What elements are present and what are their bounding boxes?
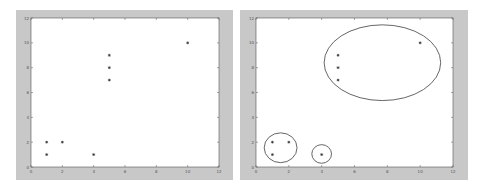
- x-tick-label: 4: [92, 169, 95, 174]
- y-tick-label: 10: [249, 40, 255, 45]
- y-tick-label: 4: [26, 115, 29, 120]
- data-point-marker: [108, 79, 111, 82]
- x-tick-label: 2: [288, 169, 291, 174]
- y-tick-label: 12: [249, 16, 255, 21]
- plot-area-left: [31, 18, 219, 167]
- data-point-marker: [108, 66, 111, 69]
- y-tick-label: 12: [24, 16, 30, 21]
- y-tick-label: 4: [251, 115, 254, 120]
- x-tick-label: 2: [61, 169, 64, 174]
- data-point-marker: [320, 153, 323, 156]
- x-tick-label: 10: [185, 169, 191, 174]
- x-tick-label: 4: [320, 169, 323, 174]
- y-tick-label: 8: [26, 65, 29, 70]
- y-tick-label: 2: [251, 140, 254, 145]
- y-tick-label: 6: [251, 90, 254, 95]
- data-point-marker: [337, 54, 340, 57]
- charts-canvas: 024681012024681012024681012024681012: [0, 0, 482, 190]
- data-point-marker: [271, 141, 274, 144]
- x-tick-label: 0: [30, 169, 33, 174]
- data-point-marker: [287, 141, 290, 144]
- x-tick-label: 0: [255, 169, 258, 174]
- y-tick-label: 10: [24, 40, 30, 45]
- x-tick-label: 8: [155, 169, 158, 174]
- x-tick-label: 10: [418, 169, 424, 174]
- x-tick-label: 6: [353, 169, 356, 174]
- data-point-marker: [92, 153, 95, 156]
- data-point-marker: [337, 79, 340, 82]
- x-tick-label: 12: [216, 169, 222, 174]
- x-tick-label: 8: [386, 169, 389, 174]
- y-tick-label: 6: [26, 90, 29, 95]
- x-tick-label: 12: [450, 169, 456, 174]
- data-point-marker: [337, 66, 340, 69]
- x-tick-label: 6: [124, 169, 127, 174]
- data-point-marker: [108, 54, 111, 57]
- y-tick-label: 2: [26, 140, 29, 145]
- plot-area-right: [256, 18, 453, 167]
- data-point-marker: [271, 153, 274, 156]
- y-tick-label: 8: [251, 65, 254, 70]
